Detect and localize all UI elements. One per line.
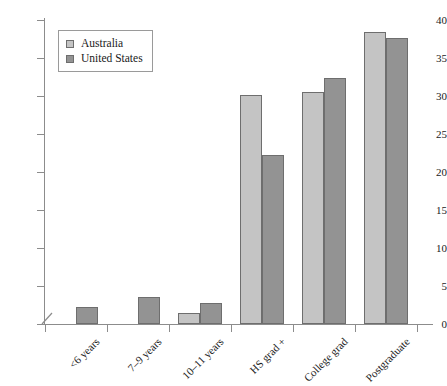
dark-gray-square-icon	[66, 55, 74, 63]
x-axis-tick	[107, 324, 108, 332]
y-axis-tick-label: 30	[417, 91, 447, 102]
x-axis-tick	[417, 324, 418, 332]
bar-united-states	[200, 303, 222, 324]
bar-australia	[240, 95, 262, 324]
bar-united-states	[262, 155, 284, 324]
x-axis-tick	[355, 324, 356, 332]
x-axis-tick	[169, 324, 170, 332]
y-axis-tick-label: 20	[417, 167, 447, 178]
legend-item-label: United States	[81, 53, 143, 65]
bar-united-states	[76, 307, 98, 324]
bar-chart: 0510152025303540 <6 years7–9 years10–11 …	[0, 0, 447, 386]
x-axis-tick-label: College grad	[302, 336, 350, 384]
y-axis-tick	[37, 286, 45, 287]
y-axis-tick-label: 35	[417, 53, 447, 64]
x-axis-tick	[293, 324, 294, 332]
y-axis-tick-label: 40	[417, 15, 447, 26]
x-axis-tick	[45, 324, 46, 332]
x-axis-tick-label: HS grad +	[248, 336, 288, 376]
bar-united-states	[386, 38, 408, 324]
legend-item-label: Australia	[81, 38, 123, 50]
legend-item: United States	[66, 51, 143, 66]
y-axis-tick-label: 10	[417, 243, 447, 254]
bar-australia	[178, 313, 200, 324]
legend-item: Australia	[66, 36, 143, 51]
y-axis-tick	[37, 324, 45, 325]
y-axis-tick	[37, 96, 45, 97]
y-axis-tick	[37, 20, 45, 21]
light-gray-square-icon	[66, 40, 74, 48]
y-axis-tick-label: 15	[417, 205, 447, 216]
y-axis-tick	[37, 248, 45, 249]
y-axis-tick	[37, 172, 45, 173]
y-axis-tick	[37, 134, 45, 135]
y-axis-tick	[37, 210, 45, 211]
bar-united-states	[324, 78, 346, 324]
y-axis-tick-label: 5	[417, 281, 447, 292]
bar-united-states	[138, 297, 160, 324]
x-axis-tick-label: <6 years	[67, 336, 101, 370]
bar-australia	[302, 92, 324, 324]
x-axis-tick-label: Postgraduate	[364, 336, 412, 384]
y-axis-tick	[37, 58, 45, 59]
x-axis-tick-label: 10–11 years	[180, 336, 225, 381]
y-axis-tick-label: 25	[417, 129, 447, 140]
y-axis-tick-label: 0	[417, 319, 447, 330]
chart-legend: AustraliaUnited States	[58, 30, 153, 72]
bar-australia	[364, 32, 386, 324]
x-axis-tick	[231, 324, 232, 332]
x-axis-tick-label: 7–9 years	[126, 336, 164, 374]
